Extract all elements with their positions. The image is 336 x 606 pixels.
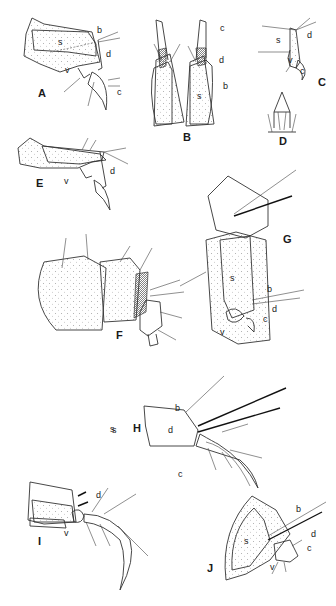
panel-label-j: J: [207, 563, 213, 574]
label-a-v: v: [65, 66, 70, 75]
label-j-c: c: [307, 544, 312, 553]
label-c-v: v: [288, 56, 293, 65]
label-b-s: s: [197, 92, 202, 101]
label-a-s: s: [58, 38, 63, 47]
panel-label-a: A: [38, 88, 46, 99]
panel-f-drawing: [38, 234, 184, 346]
label-b-b: b: [223, 82, 228, 91]
label-g-v: v: [220, 328, 225, 337]
panel-label-b: B: [183, 132, 191, 143]
label-c-s: s: [276, 36, 281, 45]
panel-label-c: C: [318, 77, 326, 88]
label-c-c: c: [300, 67, 305, 76]
label-a-b: b: [97, 26, 102, 35]
label-a-d: d: [106, 50, 111, 59]
label-j-d: d: [311, 530, 316, 539]
label-e-v: v: [64, 177, 69, 186]
panel-label-e: E: [36, 178, 43, 189]
label-j-b: b: [296, 505, 301, 514]
panel-label-f: F: [116, 330, 123, 341]
label-g-b: b: [267, 285, 272, 294]
label-h-b: b: [175, 404, 180, 413]
label-b-d: d: [219, 56, 224, 65]
panel-label-i: I: [38, 536, 41, 547]
panel-c-drawing: [258, 18, 316, 80]
label-e-d: d: [110, 167, 115, 176]
panel-h-drawing: [144, 376, 286, 488]
panel-b-drawing: [151, 20, 214, 126]
panel-label-g: G: [283, 234, 292, 245]
illustration-plate: s b d v c A c d b s B s d v c C D d v E …: [0, 0, 336, 606]
label-h-c: c: [178, 470, 183, 479]
panel-label-d: D: [279, 136, 287, 147]
label-g-s: s: [230, 274, 235, 283]
panel-label-h: H: [133, 423, 141, 434]
panel-g-drawing: [180, 170, 304, 344]
label-i-v: v: [64, 529, 69, 538]
label-h-s-text: s: [112, 426, 117, 435]
label-i-d: d: [96, 491, 101, 500]
label-j-v: v: [270, 563, 275, 572]
label-b-c: c: [220, 24, 225, 33]
label-j-s: s: [244, 537, 249, 546]
label-c-d: d: [307, 31, 312, 40]
label-g-c: c: [263, 315, 268, 324]
line-drawings: [0, 0, 336, 606]
label-g-d: d: [272, 305, 277, 314]
label-h-d: d: [168, 426, 173, 435]
panel-d-drawing: [268, 92, 296, 132]
panel-i-drawing: [28, 482, 148, 590]
label-a-c: c: [117, 88, 122, 97]
